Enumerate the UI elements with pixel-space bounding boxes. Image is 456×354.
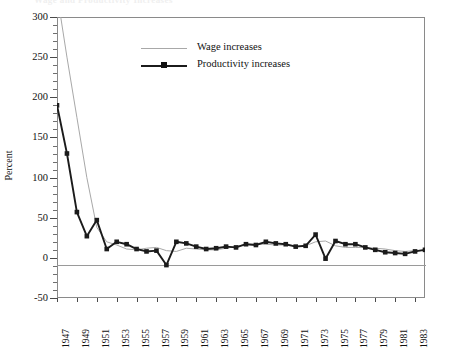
x-tick: [296, 298, 297, 302]
y-tick-minor: [53, 65, 57, 66]
y-tick-label: 250: [4, 52, 48, 62]
x-tick-label: 1961: [200, 329, 210, 348]
y-tick-label: 200: [4, 92, 48, 102]
y-axis-title: Percent: [3, 136, 14, 196]
y-tick-minor: [53, 81, 57, 82]
y-tick-minor: [53, 266, 57, 267]
y-tick-minor: [53, 282, 57, 283]
x-tick-label: 1983: [419, 329, 429, 348]
y-tick-label: -50: [4, 293, 48, 303]
y-tick-label-wrap: 300: [0, 12, 48, 22]
x-tick-label: 1957: [161, 329, 171, 348]
x-tick-label: 1947: [61, 329, 71, 348]
x-tick-label: 1969: [280, 329, 290, 348]
y-tick-label: 100: [4, 173, 48, 183]
square-marker-icon: [161, 62, 167, 68]
x-tick: [236, 298, 237, 302]
legend-label-productivity: Productivity increases: [197, 58, 290, 69]
x-tick-label: 1977: [359, 329, 369, 348]
y-tick-minor: [53, 226, 57, 227]
legend: Wage increases Productivity increases: [141, 40, 341, 74]
x-tick: [336, 298, 337, 302]
y-tick-minor: [53, 25, 57, 26]
x-tick: [395, 298, 396, 302]
legend-item-productivity: Productivity increases: [141, 57, 341, 74]
x-tick: [97, 298, 98, 302]
legend-label-wage: Wage increases: [197, 41, 262, 52]
x-tick-label: 1951: [101, 329, 111, 348]
x-tick: [57, 298, 58, 302]
y-tick-minor: [53, 194, 57, 195]
y-tick-minor: [53, 186, 57, 187]
x-tick: [176, 298, 177, 302]
x-tick-label: 1963: [220, 329, 230, 348]
x-tick: [117, 298, 118, 302]
y-tick-minor: [53, 170, 57, 171]
y-tick-minor: [53, 210, 57, 211]
chart-container: Wage and Productivity Increases Percent …: [0, 0, 456, 354]
x-tick-label: 1953: [121, 329, 131, 348]
y-tick-label: 150: [4, 132, 48, 142]
x-tick-label: 1981: [399, 329, 409, 348]
x-tick-label: 1959: [180, 329, 190, 348]
y-tick-minor: [53, 113, 57, 114]
y-tick-minor: [53, 49, 57, 50]
x-tick-label: 1973: [320, 329, 330, 348]
y-tick-major: [50, 97, 57, 98]
y-tick-label: 50: [4, 213, 48, 223]
y-tick-label: 300: [4, 12, 48, 22]
x-tick: [157, 298, 158, 302]
y-tick-major: [50, 258, 57, 259]
y-tick-minor: [53, 274, 57, 275]
x-tick-label: 1965: [240, 329, 250, 348]
zero-reference-line: [57, 265, 426, 266]
y-tick-major: [50, 137, 57, 138]
y-tick-major: [50, 178, 57, 179]
x-tick-label: 1949: [81, 329, 91, 348]
y-tick-minor: [53, 89, 57, 90]
y-tick-major: [50, 298, 57, 299]
y-tick-label-wrap: 250: [0, 52, 48, 62]
x-tick: [216, 298, 217, 302]
y-tick-minor: [53, 290, 57, 291]
y-tick-label-wrap: 0: [0, 253, 48, 263]
x-tick: [256, 298, 257, 302]
x-tick-label: 1971: [300, 329, 310, 348]
y-tick-minor: [53, 162, 57, 163]
x-tick: [276, 298, 277, 302]
x-tick-label: 1979: [379, 329, 389, 348]
x-tick: [415, 298, 416, 302]
y-tick-label-wrap: 50: [0, 213, 48, 223]
y-tick-major: [50, 57, 57, 58]
y-tick-label-wrap: 100: [0, 173, 48, 183]
y-tick-major: [50, 218, 57, 219]
y-tick-minor: [53, 202, 57, 203]
x-tick: [77, 298, 78, 302]
y-tick-label-wrap: 150: [0, 132, 48, 142]
y-tick-minor: [53, 41, 57, 42]
x-tick-label: 1955: [141, 329, 151, 348]
x-tick: [137, 298, 138, 302]
y-tick-minor: [53, 154, 57, 155]
y-tick-minor: [53, 129, 57, 130]
legend-item-wage: Wage increases: [141, 40, 341, 57]
y-tick-minor: [53, 73, 57, 74]
x-tick: [355, 298, 356, 302]
x-tick: [375, 298, 376, 302]
x-tick-label: 1975: [340, 329, 350, 348]
y-tick-minor: [53, 33, 57, 34]
x-tick-label: 1967: [260, 329, 270, 348]
wage-line-swatch: [141, 48, 187, 49]
y-tick-label-wrap: -50: [0, 293, 48, 303]
y-tick-minor: [53, 242, 57, 243]
chart-title: Wage and Productivity Increases: [34, 0, 234, 7]
y-tick-major: [50, 17, 57, 18]
x-tick: [316, 298, 317, 302]
y-tick-minor: [53, 234, 57, 235]
y-tick-minor: [53, 121, 57, 122]
y-tick-minor: [53, 146, 57, 147]
y-tick-minor: [53, 250, 57, 251]
y-tick-minor: [53, 105, 57, 106]
y-tick-label-wrap: 200: [0, 92, 48, 102]
x-tick: [196, 298, 197, 302]
